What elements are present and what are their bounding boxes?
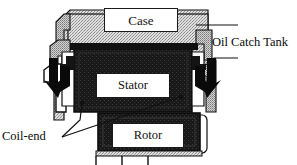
callout-label-oil-catch-tank: Oil Catch Tank — [212, 36, 288, 49]
part-label-stator: Stator — [96, 73, 170, 98]
callout-label-coil-end: Coil-end — [2, 130, 46, 143]
part-label-rotor: Rotor — [112, 123, 184, 148]
part-label-case: Case — [104, 8, 178, 32]
machine-cross-section-figure: Case Stator Rotor Oil Catch Tank Coil-en… — [0, 0, 297, 165]
